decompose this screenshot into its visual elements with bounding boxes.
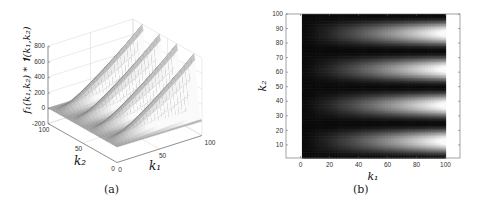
x-tick-label: 0 bbox=[299, 161, 303, 168]
y-tick-label: 10 bbox=[276, 141, 284, 148]
y-tick-label: 50 bbox=[276, 83, 284, 90]
x-axis-label: k₁ bbox=[367, 170, 378, 183]
k2-axis-label: k₂ bbox=[74, 154, 86, 168]
k1-tick-label: 0 bbox=[118, 166, 122, 173]
z-tick-label: 200 bbox=[34, 89, 45, 96]
k1-axis-label: k₁ bbox=[149, 159, 161, 173]
z-tick-label: 0 bbox=[41, 104, 45, 111]
surface-mesh bbox=[48, 24, 202, 147]
y-tick-label: 40 bbox=[276, 97, 284, 104]
heatmap-panel: 020406080100102030405060708090100k₁k₂ (b… bbox=[240, 0, 479, 208]
surface-plot: -2000200400600800050100050100k₁k₂f₁(k₁,k… bbox=[0, 0, 240, 208]
caption-a: (a) bbox=[104, 183, 119, 196]
y-tick-label: 90 bbox=[276, 25, 284, 32]
heatmap-cells bbox=[302, 14, 446, 159]
k1-tick-label: 50 bbox=[159, 152, 167, 159]
k2-tick-label: 0 bbox=[111, 165, 115, 172]
z-tick-label: 800 bbox=[34, 42, 45, 49]
x-tick-label: 60 bbox=[384, 161, 392, 168]
surface-plot-panel: -2000200400600800050100050100k₁k₂f₁(k₁,k… bbox=[0, 0, 240, 208]
k2-tick-label: 100 bbox=[39, 126, 50, 133]
y-tick-label: 60 bbox=[276, 68, 284, 75]
k2-tick-label: 50 bbox=[75, 145, 83, 152]
k1-tick-label: 100 bbox=[205, 139, 216, 146]
y-tick-label: 80 bbox=[276, 39, 284, 46]
y-tick-label: 30 bbox=[276, 112, 284, 119]
x-tick-label: 100 bbox=[440, 161, 451, 168]
z-tick-label: 400 bbox=[34, 73, 45, 80]
y-axis-label: k₂ bbox=[256, 80, 269, 91]
heatmap-plot: 020406080100102030405060708090100k₁k₂ bbox=[240, 0, 479, 208]
x-tick-label: 40 bbox=[355, 161, 363, 168]
y-tick-label: 20 bbox=[276, 127, 284, 134]
y-tick-label: 70 bbox=[276, 54, 284, 61]
caption-b: (b) bbox=[353, 183, 369, 196]
x-tick-label: 20 bbox=[326, 161, 334, 168]
x-tick-label: 80 bbox=[413, 161, 421, 168]
z-axis-label: f₁(k₁,k₂) * 𝟏(k₁,k₂) bbox=[21, 26, 32, 114]
z-tick-label: 600 bbox=[34, 58, 45, 65]
y-tick-label: 100 bbox=[272, 10, 283, 17]
